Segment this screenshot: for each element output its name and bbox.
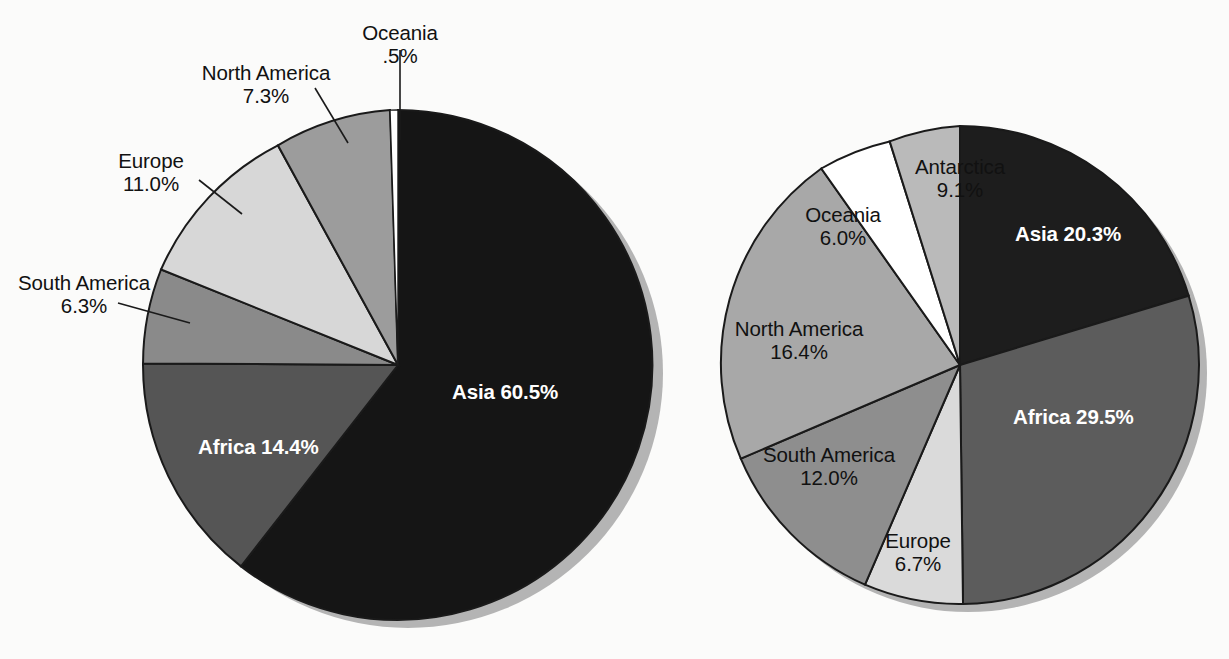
left-callout-europe-value: 11.0%: [105, 173, 197, 196]
right-label-south-america-value: 12.0%: [753, 466, 905, 489]
left-callout-europe-name: Europe: [118, 149, 184, 172]
right-label-oceania-name: Oceania: [805, 203, 881, 226]
left-callout-south-america-value: 6.3%: [8, 295, 160, 318]
right-label-antarctica: Antarctica 9.1%: [898, 155, 1022, 202]
left-pie-chart: Oceania .5% North America 7.3% Europe 11…: [0, 0, 640, 659]
right-label-oceania-value: 6.0%: [795, 226, 891, 249]
right-label-asia: Asia 20.3%: [1015, 222, 1121, 245]
right-pie-chart: Asia 20.3% Africa 29.5% Antarctica 9.1% …: [640, 0, 1229, 659]
right-label-europe-value: 6.7%: [872, 552, 964, 575]
left-label-asia: Asia 60.5%: [452, 380, 558, 403]
right-label-europe-name: Europe: [885, 529, 951, 552]
left-label-africa: Africa 14.4%: [198, 435, 319, 458]
right-label-north-america-value: 16.4%: [723, 340, 875, 363]
left-callout-south-america: South America 6.3%: [8, 272, 160, 318]
right-label-south-america-name: South America: [763, 443, 895, 466]
right-label-europe: Europe 6.7%: [872, 529, 964, 576]
left-callout-oceania-value: .5%: [342, 45, 458, 68]
right-label-south-america: South America 12.0%: [753, 443, 905, 490]
right-label-antarctica-name: Antarctica: [915, 155, 1005, 178]
pie-charts-figure: Oceania .5% North America 7.3% Europe 11…: [0, 0, 1229, 659]
left-callout-oceania-name: Oceania: [362, 21, 438, 44]
right-label-oceania: Oceania 6.0%: [795, 203, 891, 250]
right-label-antarctica-value: 9.1%: [898, 178, 1022, 201]
left-callout-north-america-name: North America: [202, 61, 331, 84]
right-label-north-america-name: North America: [735, 317, 864, 340]
left-callout-oceania: Oceania .5%: [342, 22, 458, 68]
left-callout-south-america-name: South America: [18, 271, 150, 294]
left-callout-north-america-value: 7.3%: [190, 85, 342, 108]
right-label-north-america: North America 16.4%: [723, 317, 875, 364]
left-callout-europe: Europe 11.0%: [105, 150, 197, 196]
right-label-africa: Africa 29.5%: [1013, 405, 1134, 428]
left-callout-north-america: North America 7.3%: [190, 62, 342, 108]
